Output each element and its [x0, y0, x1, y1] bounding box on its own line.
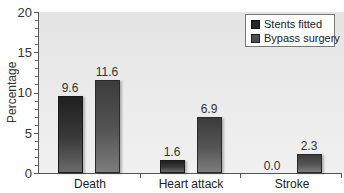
y-tick — [35, 117, 38, 118]
bar-value-label: 6.9 — [189, 103, 229, 115]
bar-heart-attack-bypass — [197, 117, 222, 173]
y-tick — [34, 52, 38, 53]
y-tick — [35, 165, 38, 166]
y-tick — [35, 44, 38, 45]
y-tick — [35, 141, 38, 142]
legend-swatch-icon — [251, 20, 260, 29]
bar-stroke-bypass — [297, 154, 322, 173]
y-tick — [35, 60, 38, 61]
y-tick-label-0: 0 — [10, 167, 32, 180]
x-category-label: Death — [40, 177, 140, 191]
legend: Stents fitted Bypass surgery — [245, 14, 335, 47]
bar-value-label: 1.6 — [152, 146, 192, 158]
legend-label: Stents fitted — [264, 18, 322, 30]
y-tick — [35, 125, 38, 126]
bar-value-label: 2.3 — [289, 140, 329, 152]
x-category-label: Heart attack — [141, 177, 241, 191]
bar-value-label: 0.0 — [252, 160, 292, 172]
bar-value-label: 11.6 — [87, 66, 127, 78]
legend-item-stents: Stents fitted — [251, 17, 322, 31]
bar-death-stents — [58, 96, 83, 173]
bar-chart: Percentage 0 5 10 15 20 9.6 11.6 Death 1… — [0, 0, 344, 193]
y-tick — [35, 84, 38, 85]
y-tick-label-5: 5 — [10, 127, 32, 140]
y-tick-label-15: 15 — [10, 46, 32, 59]
y-tick — [35, 101, 38, 102]
legend-swatch-icon — [251, 34, 260, 43]
x-category-label: Stroke — [242, 177, 342, 191]
y-tick — [34, 133, 38, 134]
legend-item-bypass: Bypass surgery — [251, 31, 340, 45]
y-tick-label-10: 10 — [10, 86, 32, 99]
bar-value-label: 9.6 — [50, 82, 90, 94]
y-tick — [35, 68, 38, 69]
y-tick — [35, 20, 38, 21]
y-tick-label-20: 20 — [10, 6, 32, 19]
y-tick — [35, 28, 38, 29]
bar-death-bypass — [95, 80, 120, 173]
y-axis — [38, 12, 39, 174]
y-tick — [35, 149, 38, 150]
y-tick — [34, 12, 38, 13]
y-tick — [34, 93, 38, 94]
y-tick — [35, 76, 38, 77]
x-axis — [34, 173, 342, 174]
y-tick — [35, 36, 38, 37]
bar-heart-attack-stents — [160, 160, 185, 173]
legend-label: Bypass surgery — [264, 32, 340, 44]
y-tick — [35, 157, 38, 158]
y-tick — [35, 109, 38, 110]
y-tick — [34, 173, 38, 174]
